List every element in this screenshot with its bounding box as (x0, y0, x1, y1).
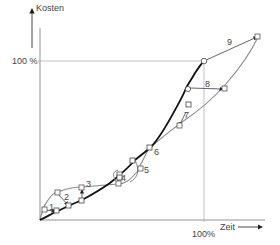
circle-markers (185, 58, 206, 91)
marker-label-5: 5 (144, 166, 149, 175)
y-100-tick-label: 100 % (12, 57, 38, 66)
marker-label-7: 7 (184, 111, 189, 120)
marker-label-9: 9 (227, 38, 232, 47)
marker-label-8: 8 (205, 80, 210, 89)
x-100-tick-label: 100% (192, 230, 215, 239)
cost-time-diagram (0, 0, 280, 245)
x-axis-label: Zeit (220, 223, 235, 232)
actual-cost-curve (40, 37, 258, 220)
marker-label-2: 2 (64, 193, 69, 202)
y-axis-label: Kosten (36, 4, 64, 13)
marker-label-4: 4 (121, 174, 126, 183)
marker-label-1: 1 (49, 203, 54, 212)
marker-label-3: 3 (86, 180, 91, 189)
marker-label-6: 6 (154, 148, 159, 157)
